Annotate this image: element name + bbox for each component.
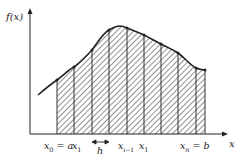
- diagram-canvas: f(x) x x0 = a x1 h xi−1 x1 xn = b: [0, 0, 252, 160]
- label-x-i-minus-1: xi−1: [118, 140, 134, 153]
- label-x-i: x1: [139, 140, 149, 154]
- curve-node: [91, 49, 94, 52]
- curve-node: [195, 67, 198, 70]
- curve-node: [73, 66, 76, 69]
- hatched-area: [57, 26, 205, 134]
- curve-node: [143, 34, 146, 37]
- label-xn-equals-b: xn = b: [180, 140, 210, 154]
- x-axis-arrow-icon: [222, 132, 228, 137]
- x-axis-label: x: [229, 138, 235, 149]
- trapezoid-rule-diagram: f(x) x x0 = a x1 h xi−1 x1 xn = b: [0, 0, 252, 160]
- label-x0-equals-a: x0 = a: [44, 140, 73, 154]
- label-h: h: [97, 145, 103, 156]
- h-double-arrow-icon: [92, 140, 109, 144]
- curve-node: [160, 43, 163, 46]
- y-axis-label: f(x): [5, 11, 23, 22]
- label-x1: x1: [72, 140, 82, 154]
- curve-node: [126, 27, 129, 30]
- curve-node: [177, 52, 180, 55]
- y-axis-arrow-icon: [28, 8, 33, 14]
- curve-node: [204, 69, 207, 72]
- curve-node: [56, 79, 59, 82]
- curve-node: [108, 29, 111, 32]
